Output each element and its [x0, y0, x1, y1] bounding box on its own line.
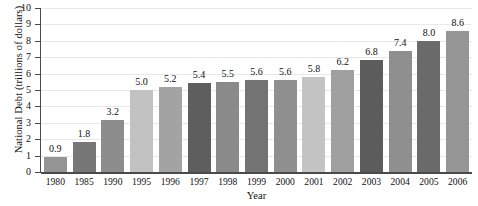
y-tick-label: 4: [5, 101, 31, 111]
y-tick-label: 10: [5, 3, 31, 13]
plot-area: [41, 8, 472, 172]
bar: [389, 51, 412, 172]
bar: [417, 41, 440, 172]
bar-value-label: 6.2: [323, 57, 363, 67]
bar: [331, 70, 354, 172]
bar: [245, 80, 268, 172]
y-tick-mark: [35, 90, 41, 91]
bar-value-label: 6.8: [351, 47, 391, 57]
bar-value-label: 7.4: [380, 38, 420, 48]
y-tick-label: 3: [5, 118, 31, 128]
bar: [44, 157, 67, 172]
y-tick-label: 5: [5, 85, 31, 95]
y-tick-label: 6: [5, 69, 31, 79]
bar-value-label: 0.9: [35, 144, 75, 154]
bar: [446, 31, 469, 172]
y-tick-label: 8: [5, 36, 31, 46]
y-tick-mark: [35, 106, 41, 107]
y-tick-mark: [35, 123, 41, 124]
x-axis-title: Year: [41, 190, 472, 201]
x-tick-label: 2006: [438, 177, 478, 187]
y-tick-label: 1: [5, 151, 31, 161]
national-debt-bar-chart: National Debt (trillions of dollars) 012…: [0, 0, 478, 206]
bar: [360, 60, 383, 172]
bar: [188, 83, 211, 172]
bar: [159, 87, 182, 172]
bar-value-label: 1.8: [64, 129, 104, 139]
y-tick-mark: [35, 172, 41, 173]
bar-value-label: 8.6: [438, 18, 478, 28]
y-tick-label: 0: [5, 167, 31, 177]
y-tick-mark: [35, 24, 41, 25]
x-axis-spine: [41, 172, 472, 174]
y-tick-label: 9: [5, 19, 31, 29]
bar: [101, 120, 124, 172]
y-tick-mark: [35, 156, 41, 157]
y-tick-label: 7: [5, 52, 31, 62]
bar: [274, 80, 297, 172]
bar: [216, 82, 239, 172]
y-tick-mark: [35, 57, 41, 58]
y-tick-mark: [35, 8, 41, 9]
y-tick-mark: [35, 139, 41, 140]
bar: [302, 77, 325, 172]
y-tick-mark: [35, 41, 41, 42]
y-tick-label: 2: [5, 134, 31, 144]
bar-value-label: 8.0: [409, 28, 449, 38]
bar: [73, 142, 96, 172]
y-tick-mark: [35, 74, 41, 75]
bar-value-label: 3.2: [93, 107, 133, 117]
bars-group: [41, 8, 472, 172]
bar: [130, 90, 153, 172]
